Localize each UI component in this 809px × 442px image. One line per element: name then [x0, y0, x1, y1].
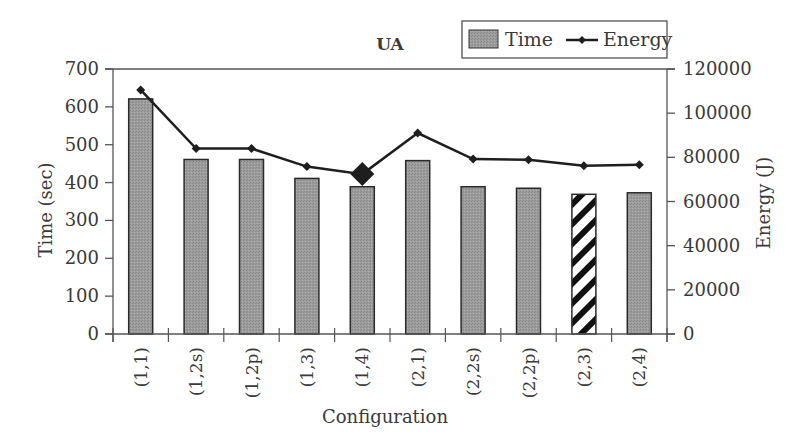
x-tick-label: (2,4)	[629, 347, 649, 387]
y-tick-label: 700	[65, 58, 99, 79]
legend: Time Energy	[462, 21, 673, 58]
x-tick-label: (1,4)	[352, 347, 372, 387]
legend-energy-label: Energy	[603, 28, 673, 50]
bar-time-6	[461, 187, 485, 334]
y2-tick-label: 80000	[683, 146, 740, 167]
bar-time-0	[129, 99, 153, 334]
x-tick-label: (1,2s)	[186, 347, 206, 396]
x-tick-label: (2,3)	[574, 347, 594, 387]
y-tick-label: 200	[65, 247, 99, 268]
y-tick-label: 100	[65, 285, 99, 306]
y-tick-label: 300	[65, 209, 99, 230]
x-tick-label: (1,3)	[297, 347, 317, 387]
energy-line	[141, 90, 640, 174]
x-tick-label: (2,1)	[408, 347, 428, 387]
y2-tick-label: 20000	[683, 279, 740, 300]
y2-axis-label: Energy (J)	[753, 157, 774, 250]
plot-area	[129, 85, 652, 334]
y2-tick-label: 60000	[683, 191, 740, 212]
x-tick-label: (2,2p)	[519, 347, 539, 398]
x-tick-label: (1,1)	[131, 347, 151, 387]
y-axis-label: Time (sec)	[35, 162, 56, 257]
bar-time-4	[350, 187, 374, 334]
x-axis-label: Configuration	[322, 406, 448, 427]
bar-time-7	[517, 188, 541, 334]
energy-marker-6	[469, 155, 478, 164]
energy-marker-9	[635, 160, 644, 169]
y2-tick-label: 100000	[683, 102, 752, 123]
energy-marker-4	[350, 162, 374, 186]
chart: UA Time Energy 0100200300400500600700020…	[0, 0, 809, 442]
y-tick-label: 500	[65, 134, 99, 155]
chart-title: UA	[376, 34, 404, 54]
bar-time-5	[406, 161, 430, 334]
energy-marker-7	[524, 155, 533, 164]
y-tick-label: 600	[65, 96, 99, 117]
x-tick-label: (2,2s)	[463, 347, 483, 396]
y-tick-label: 0	[88, 323, 99, 344]
energy-marker-3	[302, 162, 311, 171]
bar-time-1	[184, 159, 208, 334]
y-tick-label: 400	[65, 172, 99, 193]
energy-marker-8	[579, 161, 588, 170]
legend-time-label: Time	[505, 28, 553, 50]
energy-marker-2	[247, 144, 256, 153]
y2-tick-label: 40000	[683, 235, 740, 256]
y2-tick-label: 120000	[683, 58, 752, 79]
bar-time-2	[240, 159, 264, 334]
legend-time-swatch	[469, 30, 498, 48]
bar-time-3	[295, 178, 319, 334]
bar-time-8	[572, 194, 596, 334]
x-tick-label: (1,2p)	[242, 347, 262, 398]
bar-time-9	[627, 193, 651, 334]
y2-tick-label: 0	[683, 323, 694, 344]
